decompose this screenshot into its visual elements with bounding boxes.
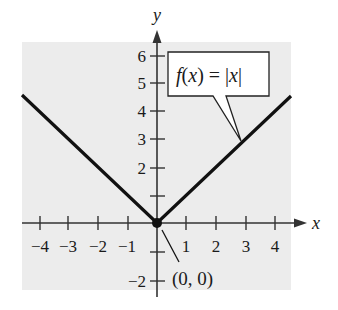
vertex-label: (0, 0) bbox=[172, 268, 213, 290]
x-axis-label: x bbox=[311, 213, 320, 233]
x-tick-label: 1 bbox=[182, 237, 191, 256]
x-tick-label: 2 bbox=[212, 237, 221, 256]
y-axis-arrow-icon bbox=[153, 30, 162, 43]
vertex-point bbox=[152, 218, 162, 228]
callout-label: f(x) = |x| bbox=[176, 64, 242, 87]
y-axis-label: y bbox=[151, 5, 161, 25]
x-tick-label: 3 bbox=[242, 237, 251, 256]
x-tick-label: −4 bbox=[31, 237, 50, 256]
x-tick-label: −3 bbox=[59, 237, 77, 256]
y-tick-label: 4 bbox=[138, 102, 147, 121]
x-tick-label: −1 bbox=[118, 237, 136, 256]
y-tick-label: 3 bbox=[138, 130, 147, 149]
y-tick-label: 6 bbox=[138, 47, 147, 66]
y-tick-label: 5 bbox=[138, 74, 147, 93]
absolute-value-graph: x −4 −3 −2 −1 1 2 3 4 y bbox=[0, 0, 338, 310]
y-tick-label: 2 bbox=[138, 159, 147, 178]
x-axis-arrow-icon bbox=[294, 219, 307, 228]
y-tick-label: −2 bbox=[128, 272, 146, 291]
x-tick-label: 4 bbox=[271, 237, 280, 256]
x-tick-label: −2 bbox=[89, 237, 107, 256]
